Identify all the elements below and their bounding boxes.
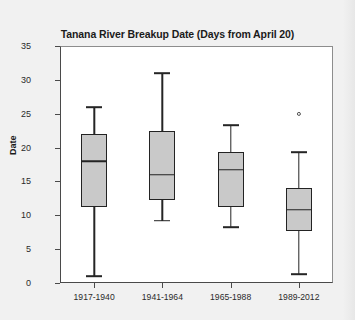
lower-whisker-cap bbox=[291, 273, 307, 275]
upper-whisker bbox=[298, 152, 299, 188]
upper-whisker-cap bbox=[291, 152, 307, 154]
boxplot-figure: Tanana River Breakup Date (Days from Apr… bbox=[0, 0, 355, 320]
outlier-point bbox=[297, 112, 301, 116]
lower-whisker bbox=[298, 231, 299, 274]
median-line bbox=[286, 209, 312, 211]
box-plot-item bbox=[0, 0, 355, 320]
